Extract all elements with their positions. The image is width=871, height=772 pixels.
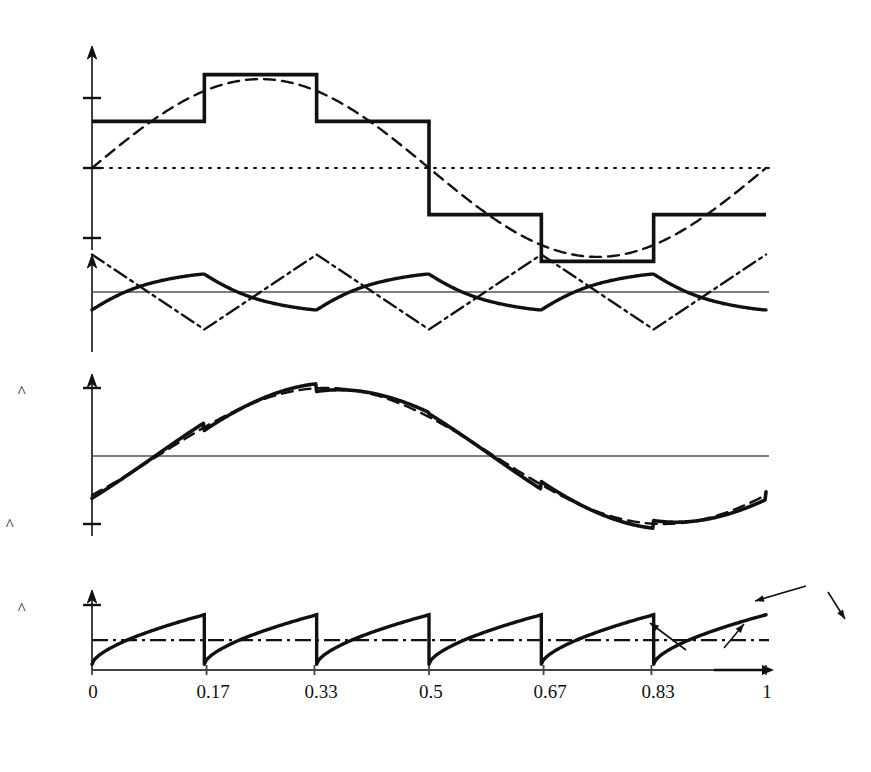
x-axis-tick-label: 1 [756,681,778,703]
x-axis-tick-label: 0.5 [419,681,441,703]
x-axis-arrowhead [762,665,774,675]
x-axis-tick-label: 0.33 [304,681,326,703]
x-axis-tick-label: 0.83 [641,681,663,703]
figure-canvas [0,0,871,772]
annotation-arrow-id-left-head [755,595,765,602]
hat-icon: ^ [18,384,26,401]
waveform-plot [0,0,871,772]
annotation-arrow-id-right-head [837,610,845,619]
hat-icon: ^ [18,601,26,618]
hat-icon: ^ [6,517,14,534]
x-axis-tick-label: 0.17 [197,681,219,703]
x-axis-tick-label: 0.67 [534,681,556,703]
x-axis-tick-label: 0 [82,681,104,703]
